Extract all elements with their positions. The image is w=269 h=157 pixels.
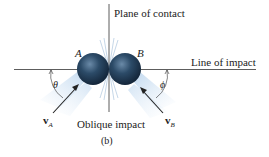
oblique-impact-diagram xyxy=(0,0,269,157)
velocity-a-label: vA xyxy=(43,115,53,129)
phi-label: ϕ xyxy=(160,80,165,90)
ball-a-label: A xyxy=(75,48,82,59)
velocity-b-label: vB xyxy=(165,115,175,129)
subfigure-label: (b) xyxy=(101,136,113,146)
line-of-impact-label: Line of impact xyxy=(191,57,256,68)
plane-of-contact-label: Plane of contact xyxy=(114,8,185,19)
ball-b-label: B xyxy=(137,48,144,59)
caption-label: Oblique impact xyxy=(77,119,145,130)
theta-label: θ xyxy=(53,80,58,90)
